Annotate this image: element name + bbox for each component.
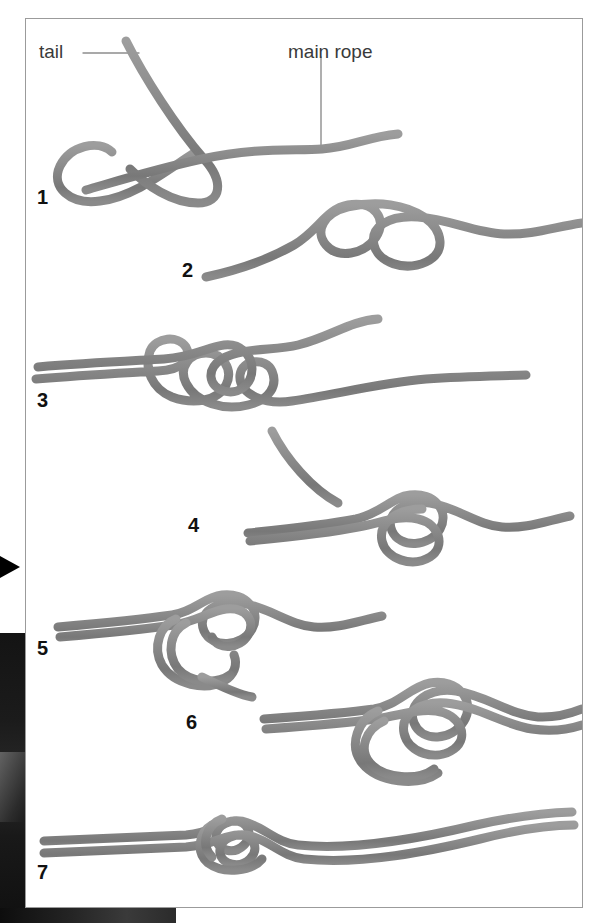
step-7-rope	[44, 812, 574, 870]
knot-diagram-svg	[26, 19, 582, 907]
step-number-1: 1	[37, 187, 48, 207]
step-number-2: 2	[182, 260, 193, 280]
step-5-rope	[58, 595, 382, 686]
instruction-panel: tail main rope 1 2 3 4 5 6 7	[25, 18, 583, 908]
step-6-rope	[202, 677, 582, 781]
page-canvas: tail main rope 1 2 3 4 5 6 7	[0, 0, 598, 923]
step-2-rope	[206, 204, 582, 277]
step-number-7: 7	[37, 862, 48, 882]
callout-label-tail: tail	[39, 42, 63, 61]
step-number-5: 5	[37, 638, 48, 658]
instruction-panel-inner: tail main rope 1 2 3 4 5 6 7	[26, 19, 582, 907]
step-4-rope	[248, 431, 570, 562]
callout-label-main-rope: main rope	[288, 42, 373, 61]
step-number-4: 4	[188, 515, 199, 535]
photo-bleed-bottom	[0, 908, 176, 923]
step-number-3: 3	[37, 390, 48, 410]
step-number-6: 6	[186, 712, 197, 732]
photo-bleed-swatch	[0, 752, 27, 822]
step-1-rope	[57, 41, 398, 203]
edge-pointer-arrow-icon	[0, 556, 20, 578]
step-3-rope	[36, 319, 526, 407]
